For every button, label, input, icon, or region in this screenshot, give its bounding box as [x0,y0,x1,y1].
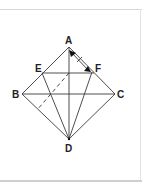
label-d: D [65,143,72,154]
dashed-fold-line [37,73,69,110]
point-d-dot [68,138,70,140]
geometry-diagram: A E F B C D [0,0,142,185]
segment-ed [42,73,69,139]
segment-ca [69,47,115,94]
label-b: B [12,89,19,100]
segment-dc [69,94,115,139]
segment-fd [69,72,92,139]
label-f: F [95,63,101,74]
label-e: E [35,63,42,74]
segment-ab [22,47,69,94]
label-a: A [65,35,72,46]
label-c: C [117,89,124,100]
